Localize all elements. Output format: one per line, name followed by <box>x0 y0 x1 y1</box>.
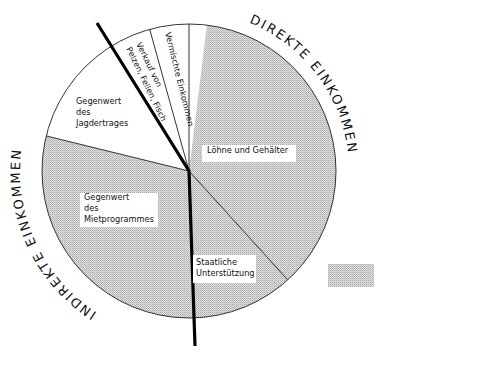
segment-label: GegenwertdesMietprogrammes <box>80 192 158 227</box>
segment-label: Löhne und Gehälter <box>202 145 296 162</box>
pie-chart: Löhne und GehälterStaatlicheUnterstützun… <box>0 0 491 369</box>
segment-label: GegenwertdesJagdertrages <box>75 96 128 128</box>
svg-text:Vermischte Einkommen: Vermischte Einkommen <box>163 31 196 127</box>
segment-label: StaatlicheUnterstützung <box>193 255 256 283</box>
segment-label: Vermischte Einkommen <box>163 31 196 127</box>
legend-swatch <box>328 264 374 287</box>
svg-text:GegenwertdesJagdertrages: GegenwertdesJagdertrages <box>75 96 128 128</box>
legend <box>328 264 374 287</box>
svg-text:Löhne und Gehälter: Löhne und Gehälter <box>207 145 289 155</box>
